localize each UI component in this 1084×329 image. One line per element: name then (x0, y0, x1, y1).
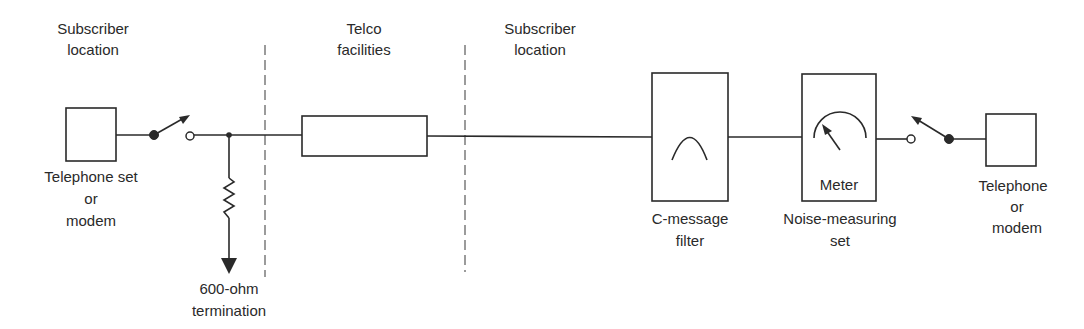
right-telephone-label-line3: modem (992, 219, 1042, 236)
left-telephone-box (66, 108, 116, 161)
termination-label-line1: 600-ohm (199, 280, 258, 297)
region-label-left-line2: location (67, 41, 119, 58)
noise-measuring-set-label-line2: set (830, 232, 851, 249)
region-label-right: Subscriber location (504, 20, 576, 58)
region-label-right-line1: Subscriber (504, 20, 576, 37)
region-label-middle-line1: Telco (346, 20, 381, 37)
telco-facilities-box (302, 116, 427, 156)
left-telephone-label-line1: Telephone set (44, 168, 138, 185)
termination-label: 600-ohm termination (192, 280, 266, 319)
block-diagram: Subscriber location Telco facilities Sub… (0, 0, 1084, 329)
meter-inner-label: Meter (820, 176, 858, 193)
noise-measuring-set-label: Noise-measuring set (783, 210, 896, 249)
c-message-filter-label-line1: C-message (652, 210, 729, 227)
left-telephone-label-line2: or (84, 190, 97, 207)
right-telephone-label: Telephone or modem (978, 177, 1047, 236)
left-telephone-label-line3: modem (66, 212, 116, 229)
wire-telco-to-filter (427, 136, 652, 137)
right-telephone-label-line2: or (1010, 198, 1023, 215)
c-message-filter-label: C-message filter (652, 210, 729, 249)
noise-measuring-set-label-line1: Noise-measuring (783, 210, 896, 227)
switch-open-icon (907, 116, 954, 144)
c-message-filter-label-line2: filter (676, 232, 704, 249)
region-label-left-line1: Subscriber (57, 20, 129, 37)
right-telephone-label-line1: Telephone (978, 177, 1047, 194)
region-label-right-line2: location (514, 41, 566, 58)
resistor-icon (224, 135, 234, 258)
left-telephone-label: Telephone set or modem (44, 168, 138, 229)
region-label-left: Subscriber location (57, 20, 129, 58)
switch-open-icon (150, 115, 195, 140)
right-telephone-box (986, 114, 1036, 166)
termination-label-line2: termination (192, 302, 266, 319)
ground-arrow-icon (221, 258, 237, 274)
region-label-middle-line2: facilities (337, 41, 390, 58)
region-label-middle: Telco facilities (337, 20, 390, 58)
